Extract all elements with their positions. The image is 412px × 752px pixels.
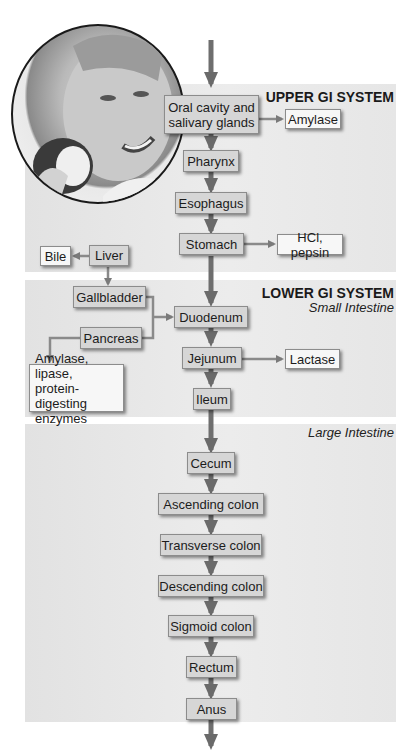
pharynx-box: Pharynx bbox=[183, 150, 239, 172]
photo-illustration-icon bbox=[13, 26, 185, 204]
pancreas-label: Pancreas bbox=[84, 331, 139, 346]
bile-label: Bile bbox=[45, 249, 67, 264]
ascending-colon-box: Ascending colon bbox=[158, 493, 264, 515]
duodenum-box: Duodenum bbox=[174, 306, 248, 328]
oral-cavity-line2: salivary glands bbox=[168, 115, 254, 130]
pancreatic-enzymes-line2: protein-digesting bbox=[35, 381, 87, 411]
descending-colon-label: Descending colon bbox=[159, 579, 262, 594]
ileum-box: Ileum bbox=[193, 388, 231, 410]
stomach-box: Stomach bbox=[179, 233, 244, 255]
pancreatic-enzymes-line3: enzymes bbox=[35, 411, 87, 426]
transverse-colon-box: Transverse colon bbox=[160, 534, 262, 556]
rectum-label: Rectum bbox=[189, 660, 234, 675]
pancreas-box: Pancreas bbox=[80, 327, 142, 349]
cecum-label: Cecum bbox=[190, 456, 231, 471]
hcl-pepsin-box: HCl, pepsin bbox=[277, 234, 343, 255]
pharynx-label: Pharynx bbox=[187, 154, 235, 169]
lactase-label: Lactase bbox=[290, 352, 336, 367]
boy-eating-apple-photo bbox=[11, 24, 185, 204]
pancreatic-enzymes-label: Amylase, lipase,protein-digestingenzymes bbox=[35, 351, 123, 426]
lactase-box: Lactase bbox=[285, 349, 340, 369]
oral-cavity-box: Oral cavity andsalivary glands bbox=[164, 95, 259, 134]
liver-label: Liver bbox=[95, 248, 123, 263]
jejunum-label: Jejunum bbox=[187, 351, 236, 366]
jejunum-box: Jejunum bbox=[182, 347, 242, 369]
amylase-label: Amylase bbox=[288, 112, 338, 127]
pancreatic-enzymes-box: Amylase, lipase,protein-digestingenzymes bbox=[29, 364, 124, 412]
liver-box: Liver bbox=[89, 245, 129, 266]
esophagus-label: Esophagus bbox=[178, 196, 243, 211]
ileum-label: Ileum bbox=[196, 392, 228, 407]
oral-cavity-line1: Oral cavity and bbox=[168, 100, 255, 115]
ascending-colon-label: Ascending colon bbox=[163, 497, 258, 512]
transverse-colon-label: Transverse colon bbox=[161, 538, 260, 553]
rectum-box: Rectum bbox=[186, 656, 237, 678]
sigmoid-colon-label: Sigmoid colon bbox=[170, 619, 252, 634]
sigmoid-colon-box: Sigmoid colon bbox=[168, 615, 254, 637]
descending-colon-box: Descending colon bbox=[158, 575, 264, 597]
esophagus-box: Esophagus bbox=[175, 192, 247, 214]
cecum-box: Cecum bbox=[187, 452, 235, 474]
bile-box: Bile bbox=[40, 246, 71, 266]
gallbladder-label: Gallbladder bbox=[76, 290, 143, 305]
stomach-label: Stomach bbox=[186, 237, 237, 252]
oral-cavity-label: Oral cavity andsalivary glands bbox=[168, 100, 255, 130]
duodenum-label: Duodenum bbox=[179, 310, 243, 325]
anus-label: Anus bbox=[197, 702, 227, 717]
pancreatic-enzymes-line1: Amylase, lipase, bbox=[35, 351, 88, 381]
hcl-pepsin-label: HCl, pepsin bbox=[278, 230, 342, 260]
anus-box: Anus bbox=[186, 698, 237, 720]
amylase-box: Amylase bbox=[285, 109, 341, 129]
gallbladder-box: Gallbladder bbox=[73, 286, 146, 308]
